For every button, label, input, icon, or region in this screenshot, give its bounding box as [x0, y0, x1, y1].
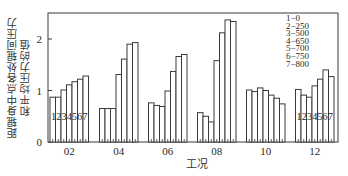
- y-tick-label: 0: [37, 136, 43, 148]
- bar: [214, 61, 220, 142]
- bar: [127, 44, 133, 142]
- plot-area: 012021234567040608101212345671−02−2503−5…: [37, 13, 339, 157]
- x-tick-label: 12: [309, 145, 320, 157]
- x-tick-label: 02: [64, 145, 75, 157]
- x-tick-label: 04: [113, 145, 125, 157]
- bar: [258, 88, 264, 142]
- bar: [116, 75, 122, 142]
- bar: [280, 104, 286, 142]
- bar-index-annotation: 1234567: [297, 112, 334, 122]
- bar: [231, 21, 237, 142]
- x-tick-label: 06: [162, 145, 174, 157]
- bar: [105, 109, 111, 142]
- bar: [198, 113, 204, 142]
- bar: [149, 103, 155, 142]
- y-tick-label: 2: [37, 33, 43, 45]
- bar: [274, 98, 280, 142]
- bar-chart: 012021234567040608101212345671−02−2503−5…: [0, 0, 348, 176]
- bar: [225, 20, 231, 142]
- bar: [329, 77, 335, 142]
- bar-index-annotation: 1234567: [51, 112, 88, 122]
- bar: [247, 90, 253, 142]
- bar: [203, 116, 209, 142]
- bar: [220, 33, 226, 142]
- bar: [209, 122, 215, 142]
- y-tick-label: 1: [37, 85, 43, 97]
- bar: [269, 95, 275, 142]
- x-tick-label: 08: [211, 145, 223, 157]
- bar: [182, 54, 188, 142]
- bar: [318, 79, 324, 142]
- bar: [78, 79, 84, 142]
- bar: [263, 91, 269, 143]
- bar: [133, 43, 139, 142]
- x-tick-label: 10: [260, 145, 272, 157]
- bar: [83, 76, 89, 142]
- bar: [171, 71, 177, 142]
- bar: [154, 105, 160, 142]
- bar: [111, 109, 117, 142]
- legend-item-7: 7−800: [286, 59, 310, 69]
- bar: [122, 59, 128, 142]
- bar: [160, 106, 166, 142]
- bar: [176, 57, 182, 142]
- bar: [323, 70, 329, 142]
- bar: [252, 92, 258, 142]
- bar: [165, 91, 171, 142]
- bar: [100, 109, 106, 142]
